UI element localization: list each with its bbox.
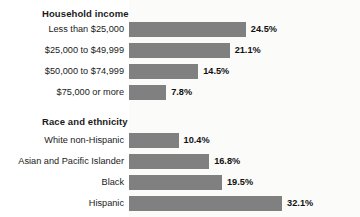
bar-row: $75,000 or more 7.8%	[0, 82, 360, 103]
value-label: 19.5%	[227, 172, 253, 193]
group-heading-race-and-ethnicity: Race and ethnicity	[42, 116, 128, 127]
value-label: 32.1%	[287, 193, 313, 214]
bar-row: Hispanic 32.1%	[0, 193, 360, 214]
value-label: 7.8%	[171, 82, 192, 103]
bar	[129, 154, 209, 169]
value-label: 21.1%	[235, 40, 261, 61]
value-label: 10.4%	[184, 130, 210, 151]
bar-row: Less than $25,000 24.5%	[0, 19, 360, 40]
value-label: 16.8%	[214, 151, 240, 172]
category-label: White non-Hispanic	[0, 130, 124, 151]
bar	[129, 85, 166, 100]
bar-row: Black 19.5%	[0, 172, 360, 193]
bar-row: $25,000 to $49,999 21.1%	[0, 40, 360, 61]
bar-row: Asian and Pacific Islander 16.8%	[0, 151, 360, 172]
bar-row: $50,000 to $74,999 14.5%	[0, 61, 360, 82]
bar-row: White non-Hispanic 10.4%	[0, 130, 360, 151]
group-heading-household-income: Household income	[42, 8, 129, 19]
bar	[129, 64, 198, 79]
bar	[129, 133, 179, 148]
bar	[129, 196, 282, 211]
category-label: Hispanic	[0, 193, 124, 214]
bar	[129, 43, 230, 58]
category-label: $25,000 to $49,999	[0, 40, 124, 61]
bar	[129, 22, 246, 37]
bar	[129, 175, 222, 190]
value-label: 14.5%	[203, 61, 229, 82]
category-label: $50,000 to $74,999	[0, 61, 124, 82]
category-label: $75,000 or more	[0, 82, 124, 103]
category-label: Less than $25,000	[0, 19, 124, 40]
category-label: Black	[0, 172, 124, 193]
category-label: Asian and Pacific Islander	[0, 151, 124, 172]
bar-chart: Household income Less than $25,000 24.5%…	[0, 0, 360, 217]
value-label: 24.5%	[251, 19, 277, 40]
